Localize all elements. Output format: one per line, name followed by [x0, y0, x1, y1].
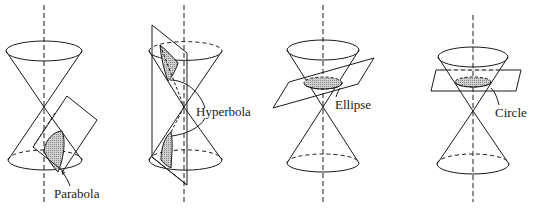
parabola-diagram — [6, 5, 97, 202]
label-leader — [62, 171, 70, 186]
hyperbola-upper-branch — [160, 45, 178, 81]
parabola-label: Parabola — [54, 187, 99, 200]
hyperbola-lower-branch — [161, 132, 172, 168]
ellipse-label: Ellipse — [335, 98, 371, 111]
circle-label: Circle — [495, 106, 527, 119]
hyperbola-label: Hyperbola — [196, 105, 251, 118]
conic-sections-drawing — [0, 0, 535, 209]
conic-sections-figure: Parabola Hyperbola Ellipse Circle — [0, 0, 535, 209]
cutting-plane — [33, 96, 97, 171]
parabola-section — [44, 131, 64, 172]
